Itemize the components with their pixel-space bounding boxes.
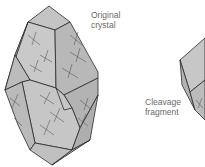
cleavage-fragment-label: Cleavage fragment <box>145 97 181 117</box>
original-crystal-label: Original crystal <box>91 10 120 30</box>
crystal-cleavage-diagram: Original crystal Cleavage fragment <box>0 0 205 167</box>
